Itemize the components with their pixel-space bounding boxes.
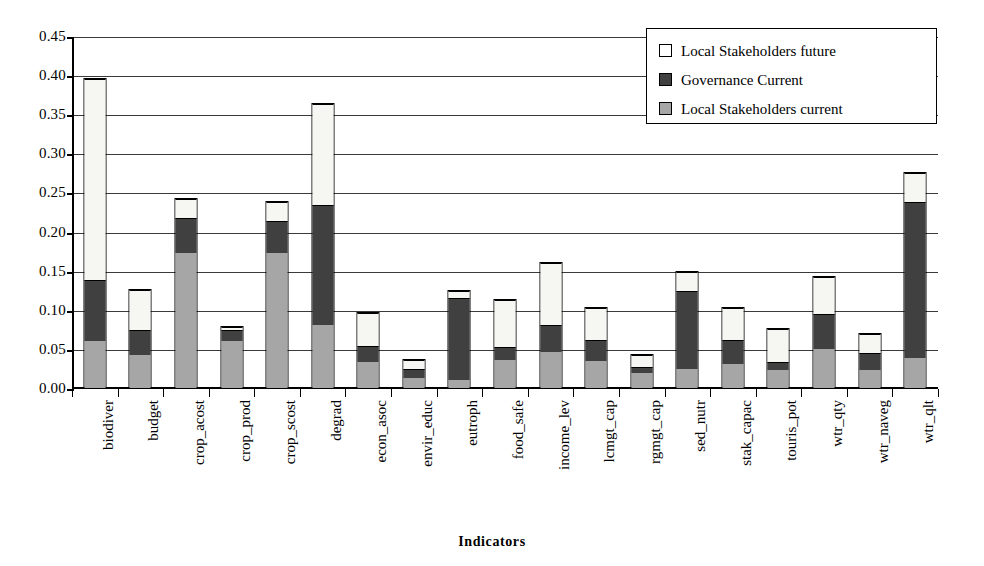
bar-segment[interactable] (358, 362, 379, 388)
bar-segment[interactable] (722, 308, 743, 340)
bar-segment[interactable] (267, 221, 288, 254)
bar-segment[interactable] (130, 355, 151, 388)
bar-segment[interactable] (814, 314, 835, 349)
legend-label: Governance Current (681, 72, 803, 88)
bar-segment[interactable] (814, 277, 835, 315)
stacked-bar[interactable] (311, 103, 334, 389)
stacked-bar[interactable] (630, 354, 653, 389)
stacked-bar[interactable] (767, 328, 790, 389)
x-axis-tick (72, 389, 73, 397)
bar-segment[interactable] (540, 263, 561, 325)
bar-segment[interactable] (859, 353, 880, 370)
stacked-bar[interactable] (676, 271, 699, 389)
bar-segment[interactable] (449, 298, 470, 380)
bar-segment[interactable] (494, 360, 515, 388)
bar-segment[interactable] (768, 362, 789, 370)
bar-segment[interactable] (403, 360, 424, 369)
bar-segment[interactable] (540, 352, 561, 388)
bar-segment[interactable] (130, 290, 151, 330)
stacked-bar[interactable] (266, 201, 289, 390)
bar-segment[interactable] (403, 369, 424, 378)
x-axis-tick (756, 389, 757, 397)
bar-segment[interactable] (586, 361, 607, 388)
bar-segment[interactable] (84, 341, 105, 388)
x-axis-category-label: wtr_naveg (876, 400, 891, 463)
bar-segment[interactable] (631, 373, 652, 388)
y-axis-tick-label: 0.05 (20, 342, 66, 357)
bar-segment[interactable] (494, 300, 515, 347)
bar-segment[interactable] (267, 202, 288, 221)
bar-segment[interactable] (905, 358, 926, 388)
x-axis-tick (528, 389, 529, 397)
bar-segment[interactable] (586, 308, 607, 340)
x-axis-tick (300, 389, 301, 397)
stacked-bar[interactable] (402, 359, 425, 389)
stacked-bar[interactable] (585, 307, 608, 389)
x-axis-tick (710, 389, 711, 397)
white-swatch-icon (659, 44, 672, 57)
bar-segment[interactable] (905, 202, 926, 358)
bar-segment[interactable] (859, 370, 880, 388)
x-axis-tick (437, 389, 438, 397)
bar-group (209, 37, 255, 389)
x-axis-tick (573, 389, 574, 397)
chart-legend: Local Stakeholders future Governance Cur… (646, 28, 937, 124)
bar-segment[interactable] (312, 325, 333, 388)
bar-segment[interactable] (312, 104, 333, 205)
bar-segment[interactable] (677, 291, 698, 369)
bar-segment[interactable] (814, 349, 835, 388)
bar-segment[interactable] (312, 205, 333, 325)
bar-segment[interactable] (494, 347, 515, 361)
stacked-bar[interactable] (721, 307, 744, 389)
x-axis-category-label: crop_scost (283, 400, 298, 464)
bar-segment[interactable] (84, 79, 105, 280)
x-axis-tick (801, 389, 802, 397)
bar-segment[interactable] (449, 380, 470, 388)
stacked-bar[interactable] (813, 276, 836, 389)
bar-segment[interactable] (267, 253, 288, 388)
bar-segment[interactable] (677, 369, 698, 388)
bar-segment[interactable] (358, 313, 379, 346)
legend-item: Local Stakeholders future (659, 36, 926, 65)
stacked-bar[interactable] (493, 299, 516, 389)
bar-segment[interactable] (358, 346, 379, 362)
x-axis-tick (345, 389, 346, 397)
bar-segment[interactable] (175, 218, 196, 254)
bar-segment[interactable] (540, 325, 561, 352)
stacked-bar[interactable] (129, 289, 152, 389)
bar-segment[interactable] (175, 199, 196, 218)
bar-segment[interactable] (722, 340, 743, 364)
y-axis-tick-label: 0.35 (20, 107, 66, 122)
bar-segment[interactable] (130, 330, 151, 355)
bar-segment[interactable] (722, 364, 743, 388)
bar-segment[interactable] (403, 378, 424, 388)
stacked-bar[interactable] (357, 312, 380, 389)
bar-segment[interactable] (221, 330, 242, 341)
bar-segment[interactable] (768, 329, 789, 362)
legend-label: Local Stakeholders future (681, 43, 836, 59)
x-axis-category-label: degrad (329, 400, 344, 441)
stacked-bar[interactable] (904, 172, 927, 389)
x-axis-tick (209, 389, 210, 397)
x-axis-tick (163, 389, 164, 397)
y-axis-tick-label: 0.00 (20, 381, 66, 396)
bar-segment[interactable] (677, 272, 698, 291)
bar-segment[interactable] (905, 173, 926, 202)
bar-segment[interactable] (221, 341, 242, 388)
bar-segment[interactable] (768, 370, 789, 388)
x-axis-category-label: crop_acost (192, 400, 207, 465)
stacked-bar[interactable] (539, 262, 562, 389)
stacked-bar[interactable] (448, 290, 471, 389)
stacked-bar[interactable] (220, 326, 243, 389)
x-axis-category-label: biodiver (101, 400, 116, 450)
bar-segment[interactable] (631, 355, 652, 367)
stacked-bar[interactable] (858, 333, 881, 389)
bar-segment[interactable] (84, 280, 105, 341)
bar-segment[interactable] (175, 253, 196, 388)
x-axis-category-label: wtr_qlt (921, 400, 936, 443)
stacked-bar[interactable] (174, 198, 197, 389)
stacked-bar[interactable] (83, 78, 106, 389)
bar-segment[interactable] (859, 334, 880, 352)
bar-segment[interactable] (586, 340, 607, 361)
y-axis-tick-label: 0.10 (20, 303, 66, 318)
